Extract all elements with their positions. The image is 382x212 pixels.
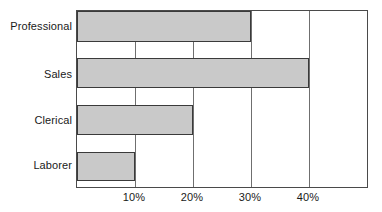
category-label-professional: Professional <box>10 21 72 32</box>
tick-label-40: 40% <box>297 192 319 203</box>
bar-chart: Professional Sales Clerical Laborer 10% … <box>0 0 382 212</box>
tick-label-20: 20% <box>181 192 203 203</box>
bar-clerical <box>77 105 193 135</box>
gridline-30 <box>251 11 252 187</box>
category-label-clerical: Clerical <box>35 115 72 126</box>
bar-laborer <box>77 152 135 181</box>
bar-professional <box>77 11 251 42</box>
bar-sales <box>77 58 309 88</box>
category-label-sales: Sales <box>44 69 72 80</box>
tick-label-10: 10% <box>123 192 145 203</box>
category-label-laborer: Laborer <box>33 160 72 171</box>
gridline-40 <box>309 11 310 187</box>
tick-label-30: 30% <box>239 192 261 203</box>
plot-area <box>76 10 368 188</box>
